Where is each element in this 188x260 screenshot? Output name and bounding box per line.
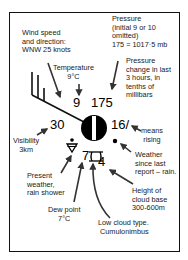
arrow-means-rising (132, 126, 141, 131)
arrow-pressure (112, 61, 118, 89)
cloud-cover-circle-icon (81, 115, 107, 141)
arrow-low-cloud (93, 164, 110, 218)
past-weather-rain-icon (113, 139, 117, 143)
arrow-wind (48, 63, 60, 97)
arrow-dew-point (74, 163, 82, 202)
rain-shower-icon (67, 138, 77, 152)
arrow-visibility (37, 129, 47, 135)
arrow-weather-since (121, 144, 131, 152)
cumulonimbus-icon (89, 152, 103, 161)
arrow-present-weather (61, 156, 71, 173)
wind-barb-icon (32, 72, 84, 122)
arrow-cloud-base (110, 170, 133, 184)
station-model-graphics (0, 0, 188, 260)
